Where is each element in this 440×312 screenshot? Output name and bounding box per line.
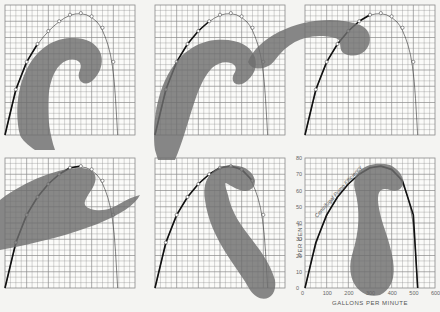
french-curve-figure: Centrifugal Pump Efficiency <box>0 0 440 312</box>
